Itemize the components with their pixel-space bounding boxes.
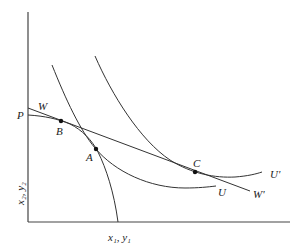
label-u: U [218,186,227,198]
label-w-prime: W' [253,188,265,200]
label-p: P [16,109,24,121]
label-a: A [85,151,93,163]
indifference-curve-u-prime [95,56,262,177]
diagram-canvas: P W B A C U U' W' x₁, y₁ x₂, y₂ [0,0,300,251]
label-b: B [56,125,63,137]
y-axis-label: x₂, y₂ [14,182,26,206]
label-c: C [193,157,201,169]
label-u-prime: U' [270,168,281,180]
label-w: W [38,100,48,112]
production-frontier-curve [28,115,118,222]
x-axis-label: x₁, y₁ [107,231,131,243]
point-c [193,170,197,174]
point-a [94,147,98,151]
point-b [59,119,63,123]
